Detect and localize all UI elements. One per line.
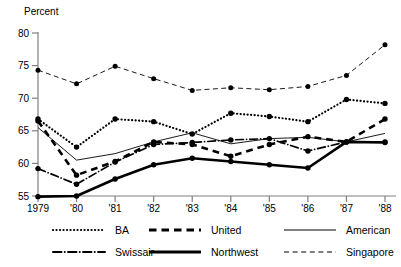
legend-row-1: BA United American [0, 219, 401, 241]
legend-swatch-northwest [148, 246, 202, 258]
svg-text:'88: '88 [378, 203, 391, 214]
svg-text:'85: '85 [263, 203, 276, 214]
svg-text:60: 60 [18, 158, 30, 169]
svg-text:70: 70 [18, 93, 30, 104]
legend-item-northwest: Northwest [148, 241, 283, 263]
legend-label-singapore: Singapore [346, 246, 394, 258]
legend-label-ba: BA [115, 224, 129, 236]
svg-text:75: 75 [18, 60, 30, 71]
svg-text:55: 55 [18, 191, 30, 202]
legend-swatch-ba [52, 224, 106, 236]
svg-text:'83: '83 [186, 203, 199, 214]
svg-text:'84: '84 [224, 203, 237, 214]
legend-swatch-united [148, 224, 202, 236]
legend-label-northwest: Northwest [211, 246, 258, 258]
plot-area: 5560657075801979'80'81'82'83'84'85'86'87… [0, 0, 401, 219]
legend-item-ba: BA [0, 219, 148, 241]
legend-row-2: Swissair Northwest Singapore [0, 241, 401, 263]
svg-text:1979: 1979 [27, 203, 50, 214]
svg-text:'87: '87 [340, 203, 353, 214]
svg-text:'82: '82 [147, 203, 160, 214]
legend-item-swissair: Swissair [0, 241, 148, 263]
svg-text:80: 80 [18, 28, 30, 39]
legend-label-american: American [346, 224, 390, 236]
svg-text:'80: '80 [70, 203, 83, 214]
legend-swatch-american [283, 224, 337, 236]
legend-item-singapore: Singapore [283, 241, 401, 263]
svg-text:'81: '81 [109, 203, 122, 214]
svg-text:'86: '86 [301, 203, 314, 214]
legend-swatch-singapore [283, 246, 337, 258]
legend-swatch-swissair [52, 246, 106, 258]
legend-label-united: United [211, 224, 241, 236]
legend-item-united: United [148, 219, 283, 241]
svg-text:65: 65 [18, 125, 30, 136]
chart-legend: BA United American Swissair Northwest [0, 219, 401, 267]
line-chart-figure: Percent 5560657075801979'80'81'82'83'84'… [0, 0, 401, 267]
legend-item-american: American [283, 219, 401, 241]
